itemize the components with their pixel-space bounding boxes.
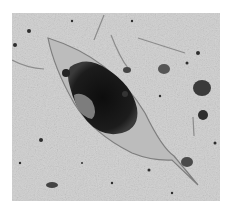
micrograph-svg (12, 13, 220, 201)
inner-granule (122, 91, 128, 97)
micrograph (12, 13, 220, 201)
mass-lobe (62, 69, 70, 77)
